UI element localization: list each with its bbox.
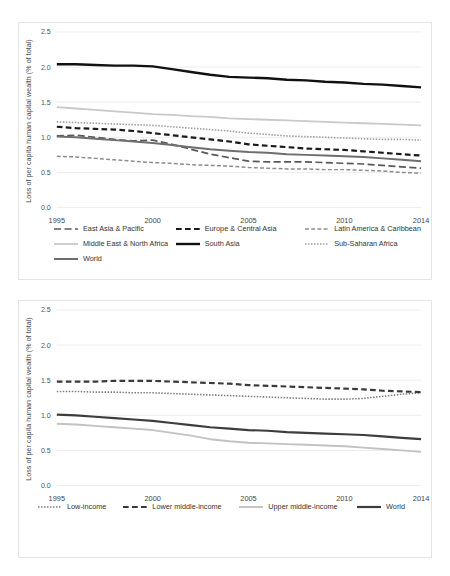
legend-item-south-asia[interactable]: South Asia	[175, 236, 304, 251]
y-axis-title-top: Loss of per capita human capital wealth …	[22, 23, 36, 219]
legend-item-low-income[interactable]: Low-income	[37, 499, 122, 514]
legend-item-east-asia-pacific[interactable]: East Asia & Pacific	[53, 221, 175, 236]
legend-item-upper-middle-income[interactable]: Upper middle-income	[238, 499, 356, 514]
series-line	[57, 381, 421, 392]
legend-swatch	[53, 239, 79, 249]
legend-item-world[interactable]: World	[356, 499, 421, 514]
y-tick-label: 1.0	[41, 412, 51, 420]
chart-income-groups: Loss of per capita human capital wealth …	[18, 300, 432, 558]
legend-line-swatch	[175, 224, 201, 234]
legend-swatch	[175, 239, 201, 249]
legend-label: Lower middle-income	[152, 502, 221, 512]
legend-swatch	[122, 502, 148, 512]
y-tick-label: 2.0	[41, 342, 51, 350]
legend-label: Upper middle-income	[268, 502, 337, 512]
y-tick-label: 2.5	[41, 29, 51, 37]
series-line	[57, 137, 421, 162]
y-tick-label: 0.5	[41, 447, 51, 455]
legend-swatch	[53, 254, 79, 264]
legend-line-swatch	[175, 239, 201, 249]
legend-row: East Asia & PacificEurope & Central Asia…	[53, 221, 421, 236]
series-line	[57, 107, 421, 125]
legend-item-lower-middle-income[interactable]: Lower middle-income	[122, 499, 238, 514]
legend-item-middle-east-north-africa[interactable]: Middle East & North Africa	[53, 236, 175, 251]
legend-label: Low-income	[67, 502, 106, 512]
y-tick-label: 0.0	[41, 204, 51, 212]
legend-label: Latin America & Caribbean	[334, 224, 421, 234]
series-line	[57, 424, 421, 452]
y-tick-label: 2.0	[41, 64, 51, 72]
chart-regions: Loss of per capita human capital wealth …	[18, 22, 432, 280]
legend-label: World	[386, 502, 405, 512]
legend-income-groups: Low-incomeLower middle-incomeUpper middl…	[19, 497, 431, 555]
legend-label: Europe & Central Asia	[205, 224, 277, 234]
legend-swatch	[356, 502, 382, 512]
legend-label: World	[83, 254, 102, 264]
legend-line-swatch	[356, 502, 382, 512]
legend-swatch	[175, 224, 201, 234]
legend-label: Middle East & North Africa	[83, 239, 168, 249]
y-tick-label: 1.0	[41, 134, 51, 142]
y-tick-label: 1.5	[41, 377, 51, 385]
y-tick-label: 0.0	[41, 482, 51, 490]
legend-swatch	[238, 502, 264, 512]
legend-line-swatch	[238, 502, 264, 512]
legend-row: Middle East & North AfricaSouth AsiaSub-…	[53, 236, 421, 251]
legend-line-swatch	[53, 239, 79, 249]
legend-line-swatch	[304, 239, 330, 249]
legend-item-latin-america-caribbean[interactable]: Latin America & Caribbean	[304, 221, 421, 236]
legend-line-swatch	[304, 224, 330, 234]
series-line	[57, 391, 421, 399]
legend-line-swatch	[53, 254, 79, 264]
legend-row: Low-incomeLower middle-incomeUpper middl…	[37, 499, 421, 514]
legend-item-world[interactable]: World	[53, 251, 178, 266]
legend-line-swatch	[37, 502, 63, 512]
legend-item-europe-central-asia[interactable]: Europe & Central Asia	[175, 221, 304, 236]
legend-swatch	[304, 224, 330, 234]
y-tick-label: 2.5	[41, 307, 51, 315]
legend-swatch	[304, 239, 330, 249]
legend-row: World	[53, 251, 421, 266]
y-axis-title-bottom: Loss of per capita human capital wealth …	[22, 301, 36, 497]
series-line	[57, 64, 421, 87]
legend-item-sub-saharan-africa[interactable]: Sub-Saharan Africa	[304, 236, 421, 251]
y-tick-label: 1.5	[41, 99, 51, 107]
legend-line-swatch	[53, 224, 79, 234]
y-tick-label: 0.5	[41, 169, 51, 177]
legend-label: East Asia & Pacific	[83, 224, 144, 234]
legend-swatch	[53, 224, 79, 234]
legend-regions: East Asia & PacificEurope & Central Asia…	[19, 219, 431, 277]
figure-page: Loss of per capita human capital wealth …	[0, 0, 450, 576]
legend-label: South Asia	[205, 239, 240, 249]
legend-swatch	[37, 502, 63, 512]
legend-label: Sub-Saharan Africa	[334, 239, 397, 249]
legend-line-swatch	[122, 502, 148, 512]
